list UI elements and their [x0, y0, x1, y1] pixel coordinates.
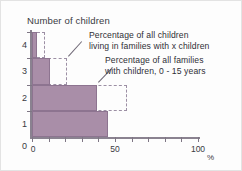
y-tick-label-2: 2 [15, 93, 27, 103]
x-tick-60 [132, 137, 133, 142]
y-axis-title: Number of children [27, 15, 110, 26]
x-tick-70 [148, 137, 149, 142]
legend-label-families: Percentage of all families with children… [105, 55, 206, 76]
y-tick-label-0: 0 [15, 141, 27, 151]
x-tick-50 [115, 137, 116, 142]
y-tick-2 [27, 85, 32, 86]
y-tick-3 [27, 58, 32, 59]
x-tick-100 [198, 137, 199, 142]
x-tick-0 [32, 137, 33, 142]
chart-figure: Number of children 0 50 100 [0, 0, 242, 171]
legend-label-children: Percentage of all children living in fam… [89, 30, 209, 51]
x-tick-80 [165, 137, 166, 142]
x-axis-unit-label: % [207, 153, 214, 162]
x-tick-40 [98, 137, 99, 142]
y-tick-label-1: 1 [15, 119, 27, 129]
y-tick-label-4: 4 [15, 40, 27, 50]
x-tick-label-50: 50 [110, 144, 119, 154]
bar-families-1 [32, 111, 108, 137]
x-tick-label-0: 0 [31, 144, 36, 154]
x-tick-30 [82, 137, 83, 142]
y-tick-label-3: 3 [15, 66, 27, 76]
leader-line-children [68, 41, 82, 57]
y-tick-4 [27, 32, 32, 33]
y-tick-1 [27, 111, 32, 112]
x-tick-90 [181, 137, 182, 142]
bar-families-3 [32, 58, 50, 84]
x-tick-10 [49, 137, 50, 142]
bar-families-4 [32, 32, 37, 58]
bar-families-2 [32, 85, 97, 111]
x-tick-label-100: 100 [191, 144, 205, 154]
x-tick-20 [65, 137, 66, 142]
